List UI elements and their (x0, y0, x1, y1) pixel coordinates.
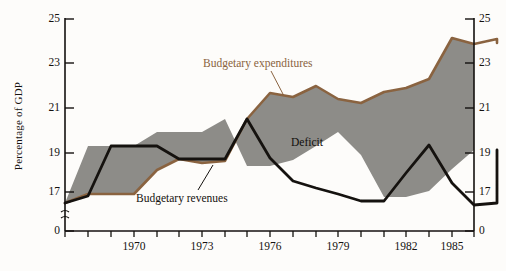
y-tick-label-right-21: 21 (479, 101, 503, 113)
x-axis-ticks (65, 231, 474, 237)
x-tick-label-1970: 1970 (114, 240, 154, 252)
x-tick-label-1979: 1979 (318, 240, 358, 252)
y-tick-label-left-23: 23 (36, 56, 60, 68)
annotation-budgetary-expenditures: Budgetary expenditures (203, 57, 313, 69)
y-tick-label-left-25: 25 (36, 12, 60, 24)
x-tick-label-1976: 1976 (250, 240, 290, 252)
annotation-budgetary-revenues: Budgetary revenues (136, 192, 228, 204)
chart-figure: Percentage of GDP (0, 0, 506, 271)
y-tick-label-left-21: 21 (36, 101, 60, 113)
x-tick-label-1973: 1973 (182, 240, 222, 252)
chart-canvas (0, 0, 506, 271)
x-tick-label-1985: 1985 (432, 240, 472, 252)
y-tick-label-left-0: 0 (36, 224, 60, 236)
y-tick-label-right-0: 0 (479, 224, 503, 236)
y-tick-label-right-19: 19 (479, 146, 503, 158)
y-tick-label-left-19: 19 (36, 146, 60, 158)
leader-line-revenues (198, 165, 213, 190)
y-tick-label-right-23: 23 (479, 56, 503, 68)
y-tick-label-right-25: 25 (479, 12, 503, 24)
x-tick-label-1982: 1982 (386, 240, 426, 252)
y-tick-label-right-17: 17 (479, 185, 503, 197)
annotation-deficit: Deficit (291, 136, 323, 148)
y-tick-label-left-17: 17 (36, 185, 60, 197)
